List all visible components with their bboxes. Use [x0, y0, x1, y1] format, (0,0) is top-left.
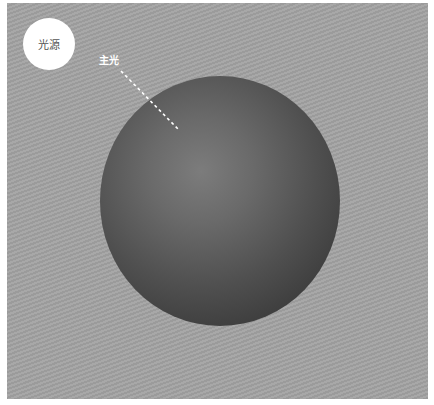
key-light-direction-line	[121, 71, 178, 129]
key-light-overlay	[7, 3, 428, 399]
diagram-canvas: 光源 主光	[7, 3, 428, 399]
